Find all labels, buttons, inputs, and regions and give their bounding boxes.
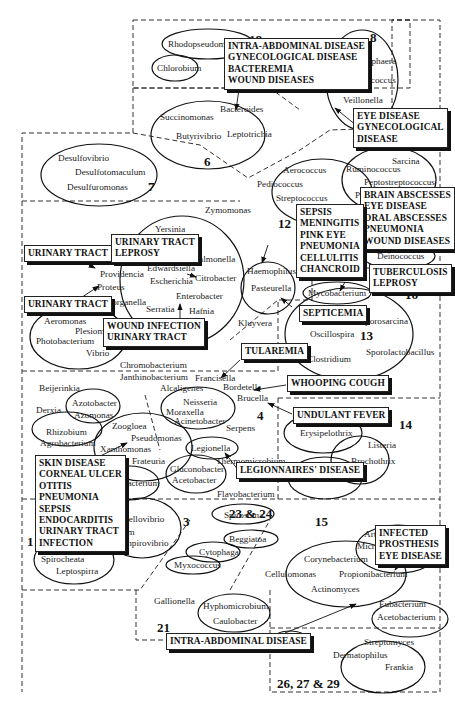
disease-label: SEPTICEMIA — [303, 308, 363, 319]
organism-label: Salmonella — [194, 254, 235, 264]
organism-label: Erysipelothrix — [300, 428, 353, 438]
organism-label: Pediococcus — [257, 179, 303, 189]
organism-label: Oscillospira — [310, 329, 354, 339]
organism-label: Bacteroides — [220, 104, 264, 114]
organism-label: Desulfovibrio — [58, 153, 109, 163]
organism-label: Acetobacterium — [377, 612, 436, 622]
disease-box-tularemia: TULAREMIA — [241, 343, 308, 360]
organism-label: Gluconobacter — [170, 464, 224, 474]
organism-label: Streptococcus — [276, 193, 328, 203]
organism-label: Escherichia — [150, 276, 193, 286]
disease-label: WOUND DISEASES — [228, 75, 365, 86]
organism-label: Flavobacterium — [217, 489, 275, 499]
disease-label: ENDOCARDITIS — [39, 515, 122, 526]
disease-box-whooping-cough: WHOOPING COUGH — [287, 375, 389, 392]
disease-box-skin-disease: SKIN DISEASE CORNEAL ULCER OTITIS PNEUMO… — [35, 455, 126, 552]
organism-label: Butyrivibrio — [176, 131, 222, 141]
disease-label: EYE DISEASE — [379, 551, 442, 562]
organism-label: Clostridium — [307, 354, 351, 364]
organism-label: Succinomonas — [160, 112, 214, 122]
organism-label: Myxococcus — [174, 560, 221, 570]
organism-label: Corynebacterium — [304, 554, 368, 564]
organism-label: Gallionella — [154, 596, 195, 606]
disease-box-eye-gynecological: EYE DISEASE GYNECOLOGICAL DISEASE — [353, 108, 448, 148]
disease-label: BRAIN ABSCESSES — [364, 190, 451, 201]
organism-label: Citrobacter — [195, 273, 236, 283]
disease-label: URINARY TRACT — [28, 248, 108, 259]
disease-label: GYNECOLOGICAL — [357, 122, 444, 133]
disease-box-urinary-tract: URINARY TRACT — [24, 245, 112, 262]
organism-label: Veillonella — [343, 95, 383, 105]
disease-box-tuberculosis: TUBERCULOSIS LEPROSY — [369, 264, 452, 293]
group-1: 1 — [27, 534, 34, 549]
organism-label: Peptostreptococcus — [364, 177, 435, 187]
organism-label: Kluyvera — [238, 318, 272, 328]
group-14: 14 — [399, 417, 413, 432]
disease-label: SEPSIS — [39, 504, 122, 515]
organism-label: Zymomonas — [205, 205, 251, 215]
disease-label: LEPROSY — [115, 248, 195, 259]
organism-label: Caulobacter — [213, 616, 257, 626]
organism-label: Beijerinkia — [39, 383, 80, 393]
disease-label: PINK EYE — [300, 230, 360, 241]
organism-label: Desulfuromonas — [67, 182, 128, 192]
organism-label: Derxia — [36, 405, 61, 415]
organism-label: Rhizobium — [46, 427, 87, 437]
organism-label: Providencia — [100, 269, 144, 279]
organism-label: Legionella — [191, 443, 230, 453]
organism-label: Serpens — [226, 423, 256, 433]
organism-label: Vibrio — [86, 348, 110, 358]
group-15: 15 — [315, 514, 329, 529]
organism-label: Aeromonas — [44, 316, 87, 326]
organism-label: Agrobacterium — [40, 438, 96, 448]
disease-label: INFECTION — [39, 538, 122, 549]
disease-label: MENINGITIS — [300, 218, 360, 229]
organism-label: Mycobacterium — [308, 288, 366, 298]
group-13: 13 — [360, 328, 374, 343]
disease-label: INTRA-ABDOMINAL DISEASE — [228, 41, 365, 52]
disease-box-sepsis-meningitis: SEPSIS MENINGITIS PINK EYE PNEUMONIA CEL… — [296, 204, 364, 278]
organism-label: Sporolactobacillus — [366, 347, 435, 357]
organism-label: Frankia — [385, 662, 413, 672]
organism-label: Frateuria — [132, 456, 165, 466]
disease-label: GYNECOLOGICAL DISEASE — [228, 52, 365, 63]
organism-label: Pseudomonas — [131, 433, 182, 443]
organism-label: Desulfotomaculum — [75, 167, 145, 177]
organism-label: Eubacterium — [379, 599, 426, 609]
disease-box-undulant-fever: UNDULANT FEVER — [293, 407, 389, 424]
disease-label: LEGIONNAIRES' DISEASE — [240, 465, 360, 476]
organism-label: Ruminococcus — [346, 164, 401, 174]
disease-box-septicemia: SEPTICEMIA — [299, 305, 367, 322]
organism-label: Janthinobacterium — [120, 372, 188, 382]
organism-label: Azomonas — [74, 410, 114, 420]
disease-label: INFECTED — [379, 528, 442, 539]
disease-label: WHOOPING COUGH — [291, 378, 385, 389]
disease-box-infected-prosthesis: INFECTED PROSTHESIS EYE DISEASE — [375, 525, 446, 565]
disease-label: ORAL ABSCESSES — [364, 213, 451, 224]
organism-label: Chromobacterium — [120, 360, 187, 370]
organism-label: Leptospirra — [56, 566, 98, 576]
organism-label: Zoogloea — [112, 421, 147, 431]
disease-label: OTITIS — [39, 481, 122, 492]
disease-label: CHANCROID — [300, 264, 360, 275]
organism-label: Spirosoma — [224, 510, 263, 520]
organism-label: Aerococcus — [283, 165, 327, 175]
organism-label: Spirocheata — [41, 554, 84, 564]
disease-label: LEPROSY — [373, 278, 448, 289]
disease-label: TUBERCULOSIS — [373, 267, 448, 278]
group-7: 7 — [148, 179, 155, 194]
disease-label: PNEUMONIA — [300, 241, 360, 252]
organism-label: Cytophaga — [199, 547, 239, 557]
organism-label: Deinococcus — [377, 251, 425, 261]
group-6: 6 — [204, 154, 211, 169]
organism-label: Brucella — [237, 393, 268, 403]
organism-label: Azotobacter — [72, 398, 117, 408]
organism-label: Serratia — [146, 304, 175, 314]
disease-box-intra-abdominal: INTRA-ABDOMINAL DISEASE GYNECOLOGICAL DI… — [224, 38, 369, 90]
disease-box-brain-abscesses: BRAIN ABSCESSES EYE DISEASE ORAL ABSCESS… — [360, 187, 455, 250]
disease-box-urinary-leprosy: URINARY TRACT LEPROSY — [111, 234, 199, 263]
disease-label: UNDULANT FEVER — [297, 410, 385, 421]
disease-label: DISEASE — [357, 134, 444, 145]
group-4: 4 — [257, 408, 264, 423]
organism-label: Proteus — [97, 282, 125, 292]
